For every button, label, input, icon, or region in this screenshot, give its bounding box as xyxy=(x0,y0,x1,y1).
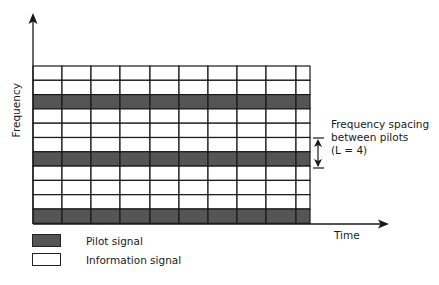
information-cell xyxy=(237,123,266,137)
information-cell xyxy=(266,138,296,152)
information-cell xyxy=(91,180,120,194)
information-cell xyxy=(150,80,179,94)
information-cell xyxy=(179,195,208,209)
information-cell xyxy=(33,138,62,152)
annotation-line-1: Frequency spacing xyxy=(331,118,429,131)
pilot-cell xyxy=(266,152,296,166)
pilot-cell xyxy=(208,152,237,166)
information-cell xyxy=(120,80,150,94)
pilot-cell xyxy=(62,209,91,223)
pilot-cell xyxy=(266,209,296,223)
pilot-cell xyxy=(33,209,62,223)
information-cell xyxy=(296,138,310,152)
information-cell xyxy=(150,66,179,80)
information-cell xyxy=(120,138,150,152)
pilot-cell xyxy=(150,209,179,223)
legend-pilot-swatch xyxy=(32,234,61,247)
legend-pilot-label: Pilot signal xyxy=(86,235,143,248)
information-cell xyxy=(150,195,179,209)
pilot-cell xyxy=(296,95,310,109)
information-cell xyxy=(296,180,310,194)
information-cell xyxy=(150,123,179,137)
annotation-line-3: (L = 4) xyxy=(331,144,367,157)
information-cell xyxy=(179,66,208,80)
information-cell xyxy=(91,109,120,123)
information-cell xyxy=(91,166,120,180)
information-cell xyxy=(296,80,310,94)
information-cell xyxy=(266,109,296,123)
information-cell xyxy=(266,123,296,137)
information-cell xyxy=(120,195,150,209)
information-cell xyxy=(33,166,62,180)
information-cell xyxy=(120,109,150,123)
information-cell xyxy=(237,180,266,194)
information-cell xyxy=(237,109,266,123)
information-cell xyxy=(120,123,150,137)
pilot-cell xyxy=(150,95,179,109)
pilot-cell xyxy=(237,152,266,166)
information-cell xyxy=(237,195,266,209)
information-cell xyxy=(179,109,208,123)
information-cell xyxy=(179,80,208,94)
information-cell xyxy=(179,138,208,152)
information-cell xyxy=(208,66,237,80)
information-cell xyxy=(296,66,310,80)
information-cell xyxy=(33,123,62,137)
information-cell xyxy=(296,195,310,209)
pilot-cell xyxy=(91,152,120,166)
information-cell xyxy=(150,138,179,152)
information-cell xyxy=(208,123,237,137)
information-cell xyxy=(91,123,120,137)
information-cell xyxy=(120,180,150,194)
pilot-cell xyxy=(150,152,179,166)
information-cell xyxy=(91,138,120,152)
pilot-cell xyxy=(208,209,237,223)
pilot-cell xyxy=(179,209,208,223)
legend-info-swatch xyxy=(32,253,61,266)
information-cell xyxy=(296,123,310,137)
information-cell xyxy=(296,109,310,123)
information-cell xyxy=(150,180,179,194)
information-cell xyxy=(208,138,237,152)
information-cell xyxy=(62,138,91,152)
information-cell xyxy=(208,166,237,180)
information-cell xyxy=(62,80,91,94)
pilot-cell xyxy=(91,209,120,223)
information-cell xyxy=(33,195,62,209)
pilot-cell xyxy=(120,209,150,223)
pilot-cell xyxy=(208,95,237,109)
pilot-cell xyxy=(296,152,310,166)
information-cell xyxy=(33,66,62,80)
information-cell xyxy=(208,180,237,194)
information-cell xyxy=(33,80,62,94)
frequency-axis-label: Frequency xyxy=(10,80,23,140)
time-frequency-grid xyxy=(33,66,310,223)
pilot-cell xyxy=(120,152,150,166)
information-cell xyxy=(91,80,120,94)
information-cell xyxy=(33,109,62,123)
pilot-cell xyxy=(62,95,91,109)
pilot-cell xyxy=(179,152,208,166)
information-cell xyxy=(237,80,266,94)
pilot-cell xyxy=(91,95,120,109)
information-cell xyxy=(237,66,266,80)
information-cell xyxy=(208,109,237,123)
information-cell xyxy=(237,166,266,180)
information-cell xyxy=(62,180,91,194)
information-cell xyxy=(179,166,208,180)
information-cell xyxy=(237,138,266,152)
information-cell xyxy=(150,166,179,180)
pilot-cell xyxy=(237,95,266,109)
information-cell xyxy=(266,180,296,194)
information-cell xyxy=(120,166,150,180)
pilot-cell xyxy=(120,95,150,109)
information-cell xyxy=(120,66,150,80)
information-cell xyxy=(208,195,237,209)
information-cell xyxy=(62,66,91,80)
information-cell xyxy=(62,123,91,137)
information-cell xyxy=(91,195,120,209)
information-cell xyxy=(266,66,296,80)
information-cell xyxy=(266,195,296,209)
pilot-cell xyxy=(266,95,296,109)
pilot-cell xyxy=(33,95,62,109)
